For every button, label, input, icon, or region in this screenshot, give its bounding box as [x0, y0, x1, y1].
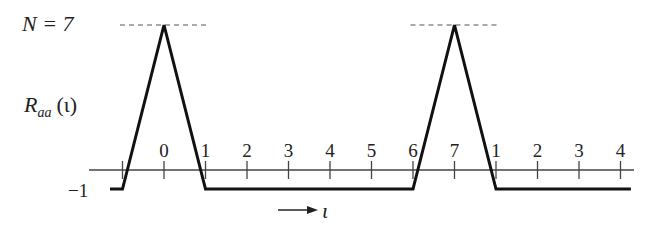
x-arrow-label: ι [322, 198, 328, 223]
x-tick-label: 2 [533, 140, 543, 161]
y-axis-label-arg: (ι) [56, 92, 77, 117]
y-axis-label: Raa(ι) [23, 92, 77, 120]
y-min-label: −1 [68, 180, 88, 201]
annotation-n: N = 7 [21, 11, 75, 36]
series-line-r-aa [110, 25, 631, 189]
x-tick-label: 3 [284, 140, 294, 161]
label-layer: N = 7 Raa(ι) −1 ι [21, 11, 328, 223]
x-tick-label: 5 [367, 140, 377, 161]
x-arrow-head-icon [307, 206, 318, 214]
x-tick-label: 4 [325, 140, 335, 161]
autocorrelation-plot: 012345671234 N = 7 Raa(ι) −1 ι [0, 0, 652, 233]
x-tick-label: 0 [159, 140, 169, 161]
x-tick-label: 1 [201, 140, 211, 161]
x-tick-label: 2 [242, 140, 252, 161]
series-layer [110, 25, 631, 189]
y-axis-label-main: R [23, 92, 38, 117]
y-axis-label-sub: aa [37, 105, 51, 120]
x-tick-label: 4 [616, 140, 626, 161]
x-tick-label: 3 [574, 140, 584, 161]
x-tick-label: 6 [408, 140, 418, 161]
x-tick-label: 7 [450, 140, 460, 161]
x-tick-label: 1 [491, 140, 501, 161]
axis-layer: 012345671234 [89, 140, 634, 214]
